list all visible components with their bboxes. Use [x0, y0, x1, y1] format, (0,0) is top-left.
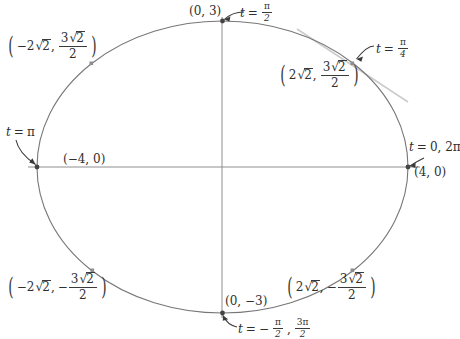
y-fraction: 3√2 2: [68, 272, 98, 301]
y-fraction: 3√2 2: [58, 31, 88, 60]
point-marker-3pi-over-4: [90, 62, 94, 66]
coordinate-pair: ( 2 √2 , 3√2 2 ): [278, 60, 361, 89]
square-root-x: √2: [34, 39, 50, 52]
fraction-3pi-over-2: 3π 2: [294, 318, 312, 339]
label-coord-upper-left: ( −2 √2 , 3√2 2 ): [6, 31, 99, 60]
label-coord-lower-left: ( −2 √2 , − 3√2 2 ): [6, 272, 109, 301]
paren-close: ): [101, 277, 106, 297]
fraction-numerator: 3π: [295, 318, 311, 327]
fraction-numerator: π: [398, 38, 408, 47]
fraction-numerator: 3√2: [321, 60, 349, 74]
y-fraction: 3√2 2: [320, 60, 350, 89]
fraction-denominator: 2: [67, 48, 79, 61]
square-root-y: √2: [347, 272, 363, 286]
radical-argument: 2: [311, 280, 320, 293]
fraction-denominator: 2: [77, 289, 89, 302]
radical-argument: 2: [42, 280, 51, 293]
square-root-y: √2: [68, 31, 84, 45]
t-variable: t: [240, 6, 245, 20]
fraction-denominator: 2: [346, 289, 358, 302]
y-minus-sign: −: [327, 281, 337, 293]
paren-open: (: [8, 277, 13, 297]
t-variable: t: [376, 42, 381, 56]
minus-sign: −: [259, 322, 269, 336]
label-point-right: (4, 0): [414, 165, 446, 179]
paren-open: (: [8, 36, 13, 56]
t-variable: t: [238, 322, 243, 336]
fraction-denominator: 2: [273, 330, 283, 339]
comma-separator: ,: [287, 322, 291, 336]
paren-close: ): [353, 65, 358, 85]
equals-sign: =: [384, 42, 394, 56]
coordinate-body: −2 √2 , 3√2 2: [16, 31, 89, 60]
radical-argument: 2: [304, 68, 313, 81]
vertex-dot-left: [35, 165, 40, 170]
y-fraction: 3√2 2: [337, 272, 367, 301]
fraction-pi-over-4: π 4: [397, 38, 409, 60]
equals-sign: =: [14, 125, 24, 139]
label-point-bottom: (0, −3): [225, 294, 267, 308]
coordinate-pair: ( 2 √2 , − 3√2 2 ): [285, 272, 378, 301]
numerator-coefficient: 3: [340, 272, 348, 286]
fraction-numerator: 3√2: [59, 31, 87, 45]
comma-separator: ,: [51, 40, 58, 52]
square-root-y: √2: [78, 272, 94, 286]
coordinate-pair: ( −2 √2 , 3√2 2 ): [6, 31, 99, 60]
numerator-coefficient: 3: [71, 272, 79, 286]
fraction-denominator: 2: [329, 77, 341, 90]
equals-sign: =: [246, 322, 256, 336]
fraction-numerator: π: [273, 318, 283, 327]
label-t-pi-over-4: t = π 4: [376, 38, 409, 60]
radical-argument: 2: [86, 272, 95, 286]
t-value: 0, 2π: [430, 140, 460, 154]
pi-value: π: [27, 125, 35, 139]
paren-close: ): [370, 277, 375, 297]
label-t-pi-over-2: t = π 2: [240, 2, 273, 24]
fraction-numerator: 3√2: [338, 272, 366, 286]
paren-open: (: [287, 277, 292, 297]
arrow-to-t-bottom: [223, 316, 237, 328]
comma-separator: ,: [320, 281, 327, 293]
numerator-coefficient: 3: [61, 31, 69, 45]
coordinate-body: −2 √2 , − 3√2 2: [16, 272, 99, 301]
fraction-pi-over-2: π 2: [261, 2, 273, 24]
coordinate-pair: ( −2 √2 , − 3√2 2 ): [6, 272, 109, 301]
label-t-bottom: t = − π 2 , 3π 2: [238, 318, 311, 339]
square-root-x: √2: [303, 280, 319, 293]
parametric-ellipse-figure: (0, 3) (0, −3) (−4, 0) (4, 0) t = π 2 t …: [0, 0, 460, 339]
equals-sign: =: [417, 140, 427, 154]
vertex-dot-top: [220, 19, 225, 24]
vertex-dot-bottom: [220, 311, 225, 316]
label-coord-lower-right: ( 2 √2 , − 3√2 2 ): [285, 272, 378, 301]
x-coefficient: 2: [296, 281, 304, 293]
y-minus-sign: −: [58, 281, 68, 293]
square-root-y: √2: [330, 60, 346, 74]
square-root-x: √2: [296, 68, 312, 81]
t-variable: t: [409, 140, 414, 154]
fraction-denominator: 2: [298, 330, 308, 339]
x-coefficient: −2: [17, 281, 35, 293]
label-point-top: (0, 3): [189, 4, 221, 18]
paren-open: (: [280, 65, 285, 85]
radical-argument: 2: [76, 31, 85, 45]
square-root-x: √2: [34, 280, 50, 293]
coordinate-body: 2 √2 , 3√2 2: [288, 60, 351, 89]
radical-argument: 2: [338, 60, 347, 74]
fraction-denominator: 2: [262, 14, 272, 23]
radical-argument: 2: [42, 39, 51, 52]
equals-sign: =: [248, 6, 258, 20]
label-t-pi: t = π: [6, 125, 35, 139]
coordinate-body: 2 √2 , − 3√2 2: [295, 272, 368, 301]
label-t-zero-2pi: t = 0, 2π: [409, 140, 460, 154]
t-variable: t: [6, 125, 11, 139]
paren-close: ): [91, 36, 96, 56]
label-point-left: (−4, 0): [63, 152, 105, 166]
numerator-coefficient: 3: [323, 60, 331, 74]
x-coefficient: 2: [289, 69, 297, 81]
comma-separator: ,: [313, 69, 320, 81]
fraction-numerator: π: [262, 2, 272, 11]
vertex-dot-right: [406, 165, 411, 170]
comma-separator: ,: [51, 281, 58, 293]
fraction-numerator: 3√2: [69, 272, 97, 286]
fraction-denominator: 4: [398, 50, 408, 59]
